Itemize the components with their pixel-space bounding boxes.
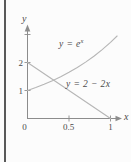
curve-2 — [28, 63, 111, 119]
x-tick-label-0: 0 — [20, 122, 29, 132]
x-axis-label: x — [124, 111, 128, 122]
y-axis-label: y — [22, 13, 26, 24]
curve-label-linear: y = 2 − 2x — [66, 79, 110, 90]
curve-label-exponential-base: y = e — [59, 39, 81, 49]
figure-container: y x 2 1 0 0.5 1 y = ex y = 2 − 2x — [0, 0, 131, 162]
curve-label-exponential: y = ex — [59, 39, 83, 50]
x-axis-arrow-icon — [116, 116, 123, 122]
y-tick-label-2: 2 — [13, 58, 23, 68]
curve-label-exponential-exponent: x — [81, 37, 84, 44]
y-tick-label-1: 1 — [13, 86, 23, 96]
x-tick-label-0-5: 0.5 — [60, 122, 77, 132]
x-tick-label-1: 1 — [106, 122, 115, 132]
y-axis-arrow-icon — [25, 25, 31, 32]
